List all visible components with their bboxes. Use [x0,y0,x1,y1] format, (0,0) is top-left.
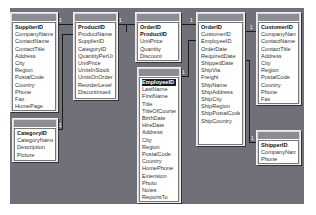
field-item[interactable]: ShipPostalCode [201,110,240,117]
field-item[interactable]: Fax [261,96,296,103]
table-categories[interactable]: CategoryID CategoryName Description Pict… [12,118,58,162]
field-item[interactable]: CategoryID [17,130,53,137]
field-item[interactable]: RequiredDate [201,53,240,60]
field-item[interactable]: CompanyName [15,31,53,38]
field-item[interactable]: City [142,137,176,144]
field-item[interactable]: FirstName [142,93,176,100]
field-item[interactable]: Phone [261,156,296,163]
field-item[interactable]: Phone [261,89,296,96]
table-title-bar[interactable] [12,14,56,22]
field-item[interactable]: Region [142,144,176,151]
field-item[interactable]: ReorderLevel [78,82,113,89]
field-item[interactable]: PostalCode [142,151,176,158]
table-products[interactable]: ProductID ProductName SupplierID Categor… [73,12,118,100]
field-item[interactable]: CategoryName [17,137,53,144]
field-item[interactable]: LastName [142,86,176,93]
table-title-bar[interactable] [139,69,179,77]
field-item[interactable]: ShippedDate [201,60,240,67]
field-item[interactable]: OrderID [201,24,240,31]
field-list[interactable]: CategoryID CategoryName Description Pict… [14,128,56,161]
field-list[interactable]: OrderID ProductID UnitPrice Quantity Dis… [137,22,179,61]
field-list[interactable]: SupplierID CompanyName ContactName Conta… [12,22,56,111]
field-list[interactable]: ShipperID CompanyName Phone [258,140,299,164]
field-item[interactable]: OrderID [140,24,176,31]
field-item[interactable]: ShipCountry [201,118,240,125]
table-title-bar[interactable] [14,120,56,128]
field-item[interactable]: Picture [17,152,53,159]
field-item[interactable]: Country [261,82,296,89]
table-title-bar[interactable] [258,132,299,140]
field-item[interactable]: Address [142,129,176,136]
field-item[interactable]: ShipperID [261,142,296,149]
field-item[interactable]: HomePhone [142,165,176,172]
field-item[interactable]: SupplierID [15,24,53,31]
field-item[interactable]: Discount [140,53,176,60]
field-item[interactable]: ShipRegion [201,103,240,110]
table-employees[interactable]: EmployeeID LastName FirstName Title Titl… [137,67,181,203]
field-item[interactable]: BirthDate [142,115,176,122]
field-item[interactable]: UnitsOnOrder [78,74,113,81]
field-item[interactable]: ShipCity [201,96,240,103]
field-item[interactable]: Discontinued [78,89,113,96]
table-title-bar[interactable] [75,14,116,22]
field-item[interactable]: OrderDate [201,46,240,53]
field-item[interactable]: UnitPrice [78,60,113,67]
field-item[interactable]: HireDate [142,122,176,129]
field-item[interactable]: ShipVia [201,67,240,74]
field-item[interactable]: PostalCode [261,74,296,81]
field-item[interactable]: Region [261,67,296,74]
field-item[interactable]: Photo [142,180,176,187]
field-item[interactable]: TitleOfCourtesy [142,108,176,115]
field-list[interactable]: CustomerID CompanyName ContactName Conta… [258,22,299,104]
field-item[interactable]: City [15,60,53,67]
field-item[interactable]: Title [142,101,176,108]
field-item-selected[interactable]: EmployeeID [142,79,176,86]
field-list[interactable]: OrderID CustomerID EmployeeID OrderDate … [198,22,243,145]
field-item[interactable]: Quantity [140,46,176,53]
field-item[interactable]: ShipName [201,82,240,89]
table-order-details[interactable]: OrderID ProductID UnitPrice Quantity Dis… [135,12,181,62]
field-item[interactable]: CompanyName [261,149,296,156]
field-item[interactable]: ContactTitle [15,46,53,53]
field-item[interactable]: CategoryID [78,46,113,53]
field-item[interactable]: UnitPrice [140,38,176,45]
field-item[interactable]: Phone [15,89,53,96]
table-suppliers[interactable]: SupplierID CompanyName ContactName Conta… [10,12,58,112]
table-title-bar[interactable] [258,14,299,22]
table-shippers[interactable]: ShipperID CompanyName Phone [256,130,301,165]
field-item[interactable]: Freight [201,74,240,81]
field-item[interactable]: ShipAddress [201,89,240,96]
field-item[interactable]: ContactName [261,38,296,45]
field-item[interactable]: EmployeeID [201,38,240,45]
table-title-bar[interactable] [198,14,243,22]
field-item[interactable]: Description [17,144,53,151]
field-item[interactable]: CompanyName [261,31,296,38]
field-item[interactable]: ContactName [15,38,53,45]
field-item[interactable]: Fax [15,96,53,103]
field-item[interactable]: PostalCode [15,74,53,81]
field-item[interactable]: Country [15,82,53,89]
field-item[interactable]: HomePage [15,103,53,110]
field-item[interactable]: ContactTitle [261,46,296,53]
field-item[interactable]: CustomerID [201,31,240,38]
field-item[interactable]: Notes [142,187,176,194]
field-item[interactable]: CustomerID [261,24,296,31]
field-item[interactable]: ProductName [78,31,113,38]
field-item[interactable]: Region [15,67,53,74]
field-item[interactable]: Extension [142,173,176,180]
field-item[interactable]: UnitsInStock [78,67,113,74]
field-list[interactable]: ProductID ProductName SupplierID Categor… [75,22,116,99]
table-customers[interactable]: CustomerID CompanyName ContactName Conta… [256,12,301,105]
field-item[interactable]: City [261,60,296,67]
field-item[interactable]: Address [261,53,296,60]
field-item[interactable]: ProductID [140,31,176,38]
table-orders[interactable]: OrderID CustomerID EmployeeID OrderDate … [196,12,245,146]
field-item[interactable]: ProductID [78,24,113,31]
field-item[interactable]: Country [142,158,176,165]
field-item[interactable]: Address [15,53,53,60]
field-item[interactable]: ReportsTo [142,194,176,201]
field-item[interactable]: QuantityPerUnit [78,53,113,60]
table-title-bar[interactable] [137,14,179,22]
field-list[interactable]: EmployeeID LastName FirstName Title Titl… [139,77,179,202]
field-item[interactable]: SupplierID [78,38,113,45]
